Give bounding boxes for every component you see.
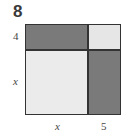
label-width-5: 5 (101, 121, 107, 132)
label-height-x: x (13, 76, 18, 87)
label-width-x: x (55, 121, 60, 132)
problem-number: 8 (13, 3, 22, 20)
label-height-4: 4 (13, 31, 19, 42)
outer-square (25, 24, 121, 115)
